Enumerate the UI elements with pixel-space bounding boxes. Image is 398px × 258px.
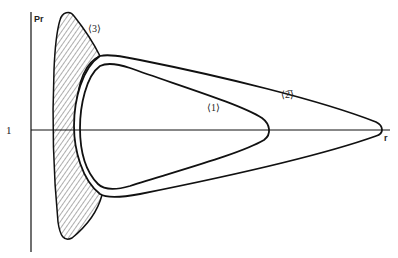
region-1-label: ⟨1⟩ [207, 103, 220, 113]
x-axis-label: r [384, 134, 388, 143]
diagram-canvas [0, 0, 398, 258]
region-2-label: ⟨2̅⟩ [281, 90, 294, 100]
y-tick-label: 1 [6, 125, 12, 136]
y-axis-label: Pr [34, 15, 44, 24]
region-3-label: ⟨3⟩ [88, 24, 101, 34]
